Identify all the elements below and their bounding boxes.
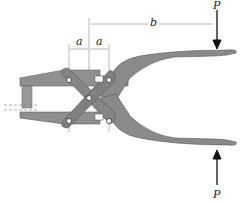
force-label-bottom: P — [213, 189, 220, 200]
pin-center — [87, 96, 92, 101]
dimension-a-right: a — [96, 36, 103, 47]
pin-lower-left — [67, 119, 72, 124]
upper-handle — [100, 50, 236, 100]
dimension-a-left: a — [76, 36, 83, 47]
force-arrows — [213, 10, 221, 185]
clamp-pad — [4, 86, 38, 110]
pin-upper-right — [107, 78, 112, 83]
lower-handle — [100, 94, 236, 145]
dimension-b: b — [148, 17, 159, 28]
force-label-top: P — [213, 0, 220, 11]
pliers-diagram — [0, 0, 242, 203]
pin-lower-right — [107, 119, 112, 124]
pin-upper-left — [67, 78, 72, 83]
